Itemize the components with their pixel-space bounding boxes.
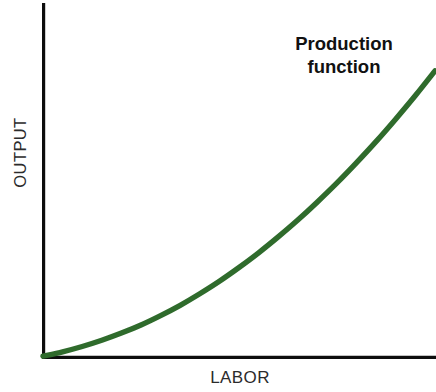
curve-annotation-label: Production function — [258, 33, 430, 78]
curve-annotation-line-2: function — [258, 56, 430, 79]
y-axis-label: OUTPUT — [11, 98, 30, 208]
x-axis-label: LABOR — [170, 368, 310, 388]
production-function-curve — [43, 71, 435, 356]
curve-annotation-line-1: Production — [258, 33, 430, 56]
production-function-figure: OUTPUT LABOR Production function — [0, 0, 436, 392]
